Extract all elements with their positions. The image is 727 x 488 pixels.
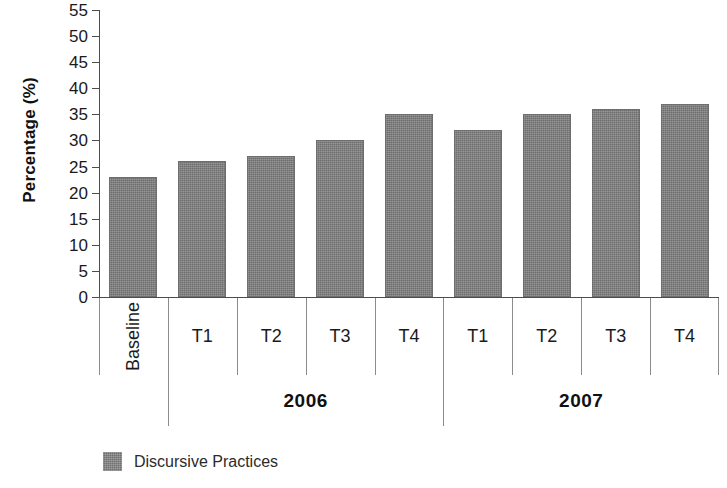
bar [178,161,226,297]
category-label-t3-7: T3 [581,298,650,375]
category-label-t4-4: T4 [375,298,444,375]
category-label-t1-5: T1 [443,298,512,375]
year-group-label-2006: 2006 [168,375,444,426]
bar [247,156,295,297]
category-label-text: T4 [398,326,419,347]
bars-layer [99,0,719,298]
category-separator [306,298,307,375]
y-axis-tick-label: 35 [40,106,88,123]
category-separator [650,298,651,375]
legend-swatch-discursive-practices [103,452,122,471]
category-label-t2-6: T2 [512,298,581,375]
legend-label-discursive-practices: Discursive Practices [134,453,278,471]
category-label-text: T2 [261,326,282,347]
category-label-text: T4 [674,326,695,347]
category-label-text: T1 [467,326,488,347]
y-axis-title: Percentage (%) [20,30,40,250]
category-separator [581,298,582,375]
category-label-text: T3 [605,326,626,347]
y-axis-tick-label: 30 [40,132,88,149]
chart-legend: Discursive Practices [103,452,278,471]
y-axis-tick-label: 0 [40,289,88,306]
bar [316,140,364,297]
bar [454,130,502,297]
bar-chart: Percentage (%) 0510152025303540455055 Ba… [0,0,727,488]
category-label-text: T2 [536,326,557,347]
category-separator [375,298,376,375]
y-axis-tick-label: 20 [40,184,88,201]
category-label-t4-8: T4 [650,298,719,375]
category-separator [237,298,238,375]
category-separator [99,298,100,375]
category-label-text: T1 [192,326,213,347]
year-group-label-2007: 2007 [443,375,719,426]
y-axis-tick-label: 50 [40,28,88,45]
y-axis-tick-label: 15 [40,210,88,227]
bar [385,114,433,297]
y-axis-tick-label: 40 [40,80,88,97]
bar [523,114,571,297]
category-label-text: Baseline [123,302,144,371]
bar [592,109,640,297]
category-separator [718,298,719,375]
category-label-text: T3 [330,326,351,347]
bar [661,104,709,297]
y-axis-tick-label: 10 [40,236,88,253]
category-label-baseline-0: Baseline [99,298,168,375]
category-label-t1-1: T1 [168,298,237,375]
category-label-t2-2: T2 [237,298,306,375]
y-axis-tick-label: 55 [40,2,88,19]
category-separator [512,298,513,375]
category-axis: BaselineT1T2T3T4T1T2T3T420062007 [99,298,719,426]
y-axis-tick-label: 25 [40,158,88,175]
bar [109,177,157,297]
y-axis-tick-labels: 0510152025303540455055 [40,0,88,310]
category-label-t3-3: T3 [306,298,375,375]
y-axis-tick-label: 5 [40,262,88,279]
y-axis-tick-label: 45 [40,54,88,71]
